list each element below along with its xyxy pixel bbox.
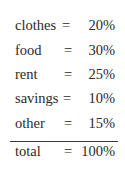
equals-sign: = [64, 141, 72, 161]
table-row: other = 15% [0, 113, 125, 133]
total-label: total [15, 141, 41, 161]
row-value: 15% [88, 113, 115, 133]
row-value: 25% [88, 64, 115, 84]
equals-sign: = [64, 40, 72, 60]
row-label: clothes [15, 15, 56, 35]
table-row: savings = 10% [0, 88, 125, 108]
row-label: savings [15, 88, 59, 108]
total-row: total = 100% [0, 141, 125, 161]
equals-sign: = [63, 88, 71, 108]
equals-sign: = [64, 64, 72, 84]
row-label: food [15, 40, 42, 60]
row-label: other [15, 113, 45, 133]
table-row: food = 30% [0, 40, 125, 60]
total-value: 100% [81, 141, 115, 161]
row-label: rent [15, 64, 38, 84]
table-row: rent = 25% [0, 64, 125, 84]
row-value: 10% [88, 88, 115, 108]
equals-sign: = [62, 15, 70, 35]
row-value: 30% [88, 40, 115, 60]
row-value: 20% [88, 15, 115, 35]
equals-sign: = [64, 113, 72, 133]
table-row: clothes = 20% [0, 15, 125, 35]
